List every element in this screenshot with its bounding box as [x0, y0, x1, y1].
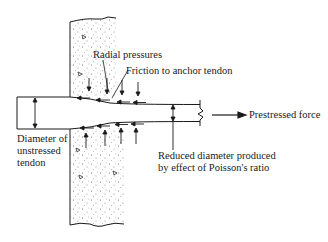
radial-pressures-label: Radial pressures [93, 49, 162, 61]
unstressed-diameter-line-2: unstressed [17, 145, 67, 157]
prestressed-force-arrow [212, 112, 246, 118]
prestressed-force-label: Prestressed force [249, 109, 320, 121]
tendon-anchorage-diagram [0, 0, 328, 242]
lower-concrete-block [70, 128, 124, 226]
reduced-diameter-line-2: by effect of Poisson's ratio [158, 162, 276, 174]
tendon [17, 97, 203, 129]
reduced-diameter-label: Reduced diameter produced by effect of P… [158, 150, 276, 174]
unstressed-diameter-dimension [33, 98, 37, 128]
reduced-diameter-line-1: Reduced diameter produced [158, 150, 276, 162]
unstressed-diameter-label: Diameter of unstressed tendon [17, 133, 67, 169]
reduced-diameter-dimension [171, 105, 175, 150]
unstressed-diameter-line-3: tendon [17, 157, 67, 169]
friction-label: Friction to anchor tendon [126, 65, 232, 77]
unstressed-diameter-line-1: Diameter of [17, 133, 67, 145]
